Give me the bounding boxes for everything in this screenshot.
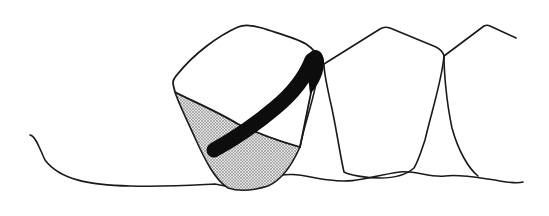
tooth-3 xyxy=(444,25,516,176)
dental-figure xyxy=(0,0,549,216)
tooth-2 xyxy=(324,27,444,178)
dental-drawing xyxy=(0,0,549,216)
